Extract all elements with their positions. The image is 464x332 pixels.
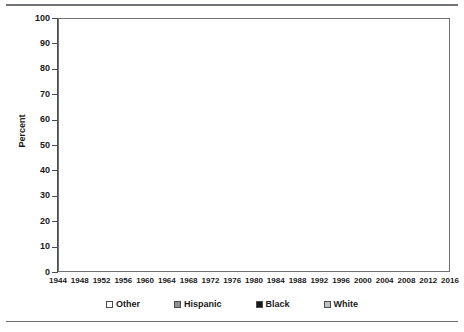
y-tick-label: 20 [8,217,50,226]
legend-label: Other [116,299,140,309]
chart-figure: Percent 0102030405060708090100 194419481… [0,0,464,332]
y-tick-label: 70 [8,90,50,99]
top-divider-rule [6,4,458,6]
legend-label: Hispanic [184,299,222,309]
legend-swatch-icon [256,301,263,308]
y-tick-label: 100 [8,14,50,23]
legend-label: White [334,299,359,309]
y-tick-label: 0 [8,268,50,277]
legend-swatch-icon [106,301,113,308]
chart-legend: OtherHispanicBlackWhite [0,299,464,309]
y-tick-label: 50 [8,141,50,150]
legend-swatch-icon [174,301,181,308]
y-tick-label: 80 [8,64,50,73]
plot-frame-border [58,18,450,272]
x-tick-label: 2016 [433,277,464,285]
y-tick-label: 40 [8,166,50,175]
legend-swatch-icon [324,301,331,308]
legend-item-black[interactable]: Black [256,299,290,309]
y-axis-title: Percent [17,91,27,171]
y-tick-label: 30 [8,191,50,200]
legend-label: Black [266,299,290,309]
legend-item-hispanic[interactable]: Hispanic [174,299,222,309]
legend-item-other[interactable]: Other [106,299,140,309]
bottom-divider-rule [6,321,458,322]
y-tick-label: 10 [8,242,50,251]
legend-item-white[interactable]: White [324,299,359,309]
y-tick-label: 90 [8,39,50,48]
y-tick-label: 60 [8,115,50,124]
plot-area [58,18,450,272]
